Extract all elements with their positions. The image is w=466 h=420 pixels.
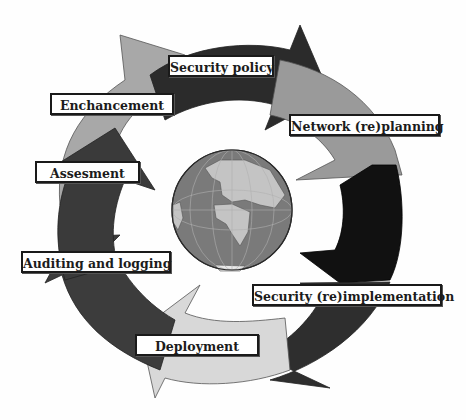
security-reimplementation-arrow (300, 165, 402, 283)
label-network-replanning: Network (re)planning (289, 114, 440, 136)
label-assesment: Assesment (35, 161, 140, 183)
label-enchancement: Enchancement (50, 93, 174, 115)
globe-icon (172, 150, 292, 271)
security-cycle-diagram: Security policy Network (re)planning Sec… (0, 0, 466, 420)
label-deployment: Deployment (135, 334, 259, 356)
label-security-policy: Security policy (168, 55, 274, 77)
label-auditing-logging: Auditing and logging (21, 251, 171, 273)
label-security-reimplementation: Security (re)implementation (252, 284, 442, 306)
